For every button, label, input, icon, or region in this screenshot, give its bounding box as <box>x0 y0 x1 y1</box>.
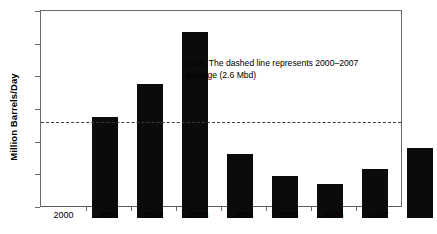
x-axis-labels: 20002001200220032004200520062007 <box>41 210 401 230</box>
x-tick-label: 2006 <box>323 210 343 220</box>
bar <box>92 117 118 218</box>
plot-area <box>40 10 402 207</box>
x-tick-label: 2004 <box>233 210 253 220</box>
y-axis-title: Million Barrels/Day <box>0 0 26 234</box>
y-tick-mark <box>35 207 40 208</box>
x-tick-label: 2003 <box>188 210 208 220</box>
x-tick-mark <box>266 207 267 211</box>
chart-note: Note: The dashed line represents 2000–20… <box>186 58 396 81</box>
bar <box>227 154 253 218</box>
x-tick-mark <box>221 207 222 211</box>
chart-note-line-1: Note: The dashed line represents 2000–20… <box>186 58 396 70</box>
x-tick-label: 2000 <box>53 210 73 220</box>
average-reference-line <box>41 122 401 123</box>
x-tick-mark <box>131 207 132 211</box>
bar <box>137 84 163 218</box>
bars-group <box>82 22 437 218</box>
x-tick-label: 2001 <box>98 210 118 220</box>
x-tick-label: 2007 <box>368 210 388 220</box>
x-tick-mark <box>176 207 177 211</box>
x-tick-label: 2002 <box>143 210 163 220</box>
bar <box>407 148 433 218</box>
chart-note-line-2: average (2.6 Mbd) <box>186 70 396 82</box>
x-tick-mark <box>356 207 357 211</box>
x-tick-mark <box>86 207 87 211</box>
x-tick-mark <box>311 207 312 211</box>
x-tick-label: 2005 <box>278 210 298 220</box>
